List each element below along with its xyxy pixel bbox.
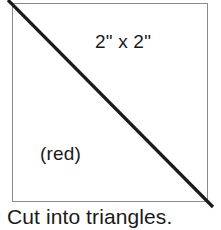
diagram-canvas: 2" x 2" (red) Cut into triangles. [0,0,221,230]
square-color-label: (red) [40,144,81,163]
diagram-caption: Cut into triangles. [7,206,172,227]
square-size-label: 2" x 2" [95,32,151,51]
